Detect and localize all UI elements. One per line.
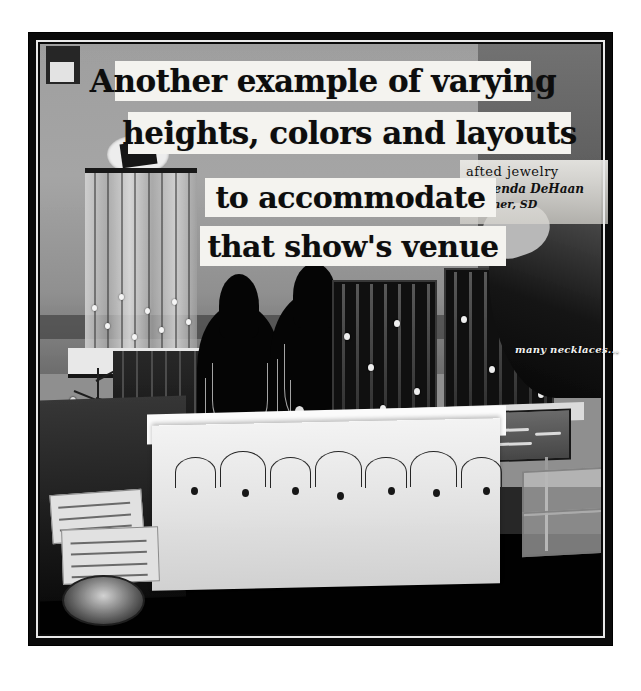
ceiling-light-fixture — [46, 46, 80, 84]
loose-necklace — [365, 457, 406, 488]
caption-line-4: that show's venue — [200, 226, 506, 266]
loose-necklace — [410, 451, 457, 487]
acrylic-tower-display — [85, 168, 197, 362]
display-bin-2 — [522, 508, 601, 558]
caption-line-2: heights, colors and layouts — [128, 112, 571, 154]
caption-line-3: to accommodate — [205, 178, 496, 217]
booth-sign-line-1: afted jewelry — [466, 164, 602, 179]
many-necklaces-label: many necklaces... — [515, 344, 619, 355]
caption-line-1: Another example of varying — [115, 61, 531, 101]
loose-necklace — [315, 451, 362, 487]
necklace-bead — [388, 487, 395, 495]
white-tablecloth — [152, 418, 500, 590]
loose-necklace — [175, 457, 216, 488]
loose-necklace — [270, 457, 311, 488]
necklace-bead — [483, 487, 490, 495]
loose-necklace — [220, 451, 267, 487]
loose-necklace — [461, 457, 502, 488]
jewelry-basket — [62, 575, 145, 626]
page-root: afted jewelry y Brenda DeHaan Wagner, SD… — [0, 0, 641, 691]
